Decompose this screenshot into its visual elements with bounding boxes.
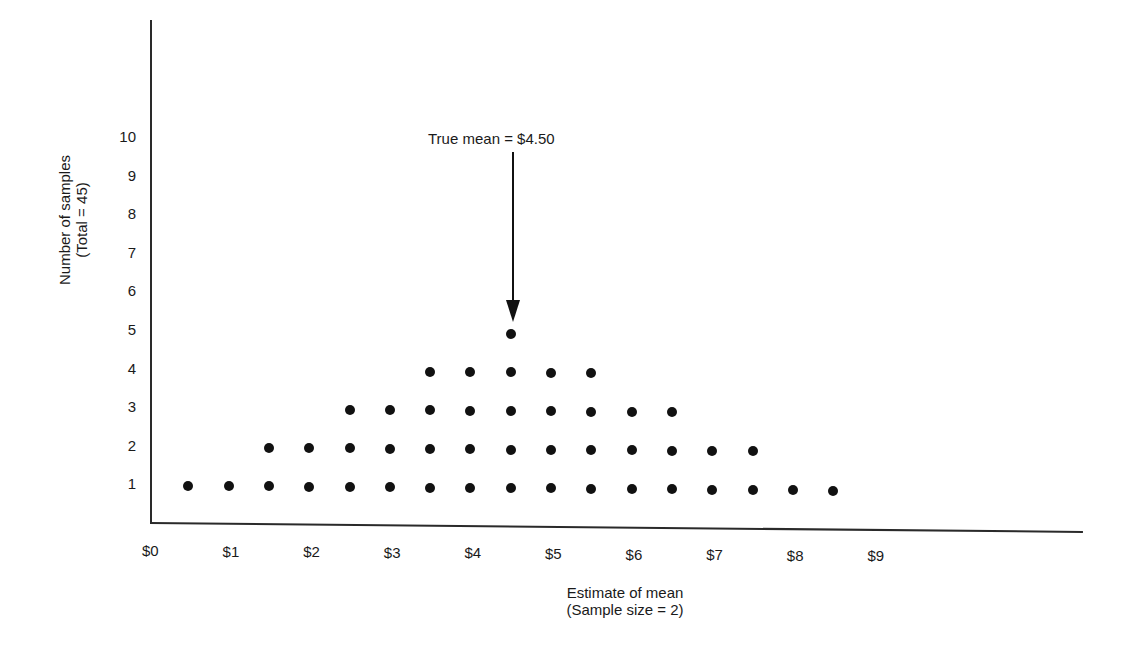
data-dot bbox=[546, 368, 556, 378]
data-dot bbox=[627, 484, 637, 494]
data-dot bbox=[304, 482, 314, 492]
data-dot bbox=[506, 445, 516, 455]
y-axis bbox=[150, 20, 152, 524]
data-dot bbox=[465, 367, 475, 377]
data-dot bbox=[627, 445, 637, 455]
y-tick-label: 1 bbox=[112, 475, 136, 492]
y-tick-label: 4 bbox=[112, 360, 136, 377]
y-tick-label: 9 bbox=[112, 167, 136, 184]
data-dot bbox=[224, 481, 234, 491]
x-tick-label: $6 bbox=[626, 546, 643, 563]
y-tick-label: 3 bbox=[112, 398, 136, 415]
data-dot bbox=[465, 444, 475, 454]
data-dot bbox=[304, 443, 314, 453]
data-dot bbox=[707, 485, 717, 495]
data-dot bbox=[707, 446, 717, 456]
x-tick-label: $1 bbox=[223, 543, 240, 560]
data-dot bbox=[586, 484, 596, 494]
arrow-down-icon bbox=[506, 300, 520, 322]
x-axis-subtitle: (Sample size = 2) bbox=[520, 601, 730, 618]
y-tick-label: 10 bbox=[112, 128, 136, 145]
data-dot bbox=[788, 485, 798, 495]
data-dot bbox=[385, 482, 395, 492]
x-tick-label: $8 bbox=[787, 547, 804, 564]
x-axis-label: Estimate of mean (Sample size = 2) bbox=[520, 584, 730, 618]
data-dot bbox=[385, 444, 395, 454]
x-axis bbox=[150, 522, 1083, 533]
x-tick-label: $0 bbox=[142, 542, 159, 559]
data-dot bbox=[506, 406, 516, 416]
data-dot bbox=[506, 367, 516, 377]
arrow-shaft bbox=[512, 152, 514, 302]
y-tick-label: 7 bbox=[112, 244, 136, 261]
data-dot bbox=[183, 481, 193, 491]
x-tick-label: $5 bbox=[545, 545, 562, 562]
data-dot bbox=[465, 406, 475, 416]
y-tick-label: 2 bbox=[112, 437, 136, 454]
data-dot bbox=[748, 485, 758, 495]
data-dot bbox=[667, 446, 677, 456]
data-dot bbox=[586, 407, 596, 417]
data-dot bbox=[425, 483, 435, 493]
y-axis-title: Number of samples bbox=[56, 110, 73, 330]
data-dot bbox=[264, 481, 274, 491]
data-dot bbox=[465, 483, 475, 493]
data-dot bbox=[506, 483, 516, 493]
x-tick-label: $4 bbox=[464, 544, 481, 561]
data-dot bbox=[425, 444, 435, 454]
y-tick-label: 6 bbox=[112, 282, 136, 299]
data-dot bbox=[345, 482, 355, 492]
x-tick-label: $3 bbox=[384, 544, 401, 561]
data-dot bbox=[385, 405, 395, 415]
data-dot bbox=[425, 367, 435, 377]
data-dot bbox=[586, 445, 596, 455]
data-dot bbox=[345, 443, 355, 453]
x-tick-label: $2 bbox=[303, 543, 320, 560]
data-dot bbox=[667, 407, 677, 417]
data-dot bbox=[546, 406, 556, 416]
data-dot bbox=[506, 329, 516, 339]
y-tick-label: 8 bbox=[112, 205, 136, 222]
x-tick-label: $9 bbox=[867, 547, 884, 564]
data-dot bbox=[586, 368, 596, 378]
data-dot bbox=[546, 445, 556, 455]
data-dot bbox=[264, 443, 274, 453]
y-tick-label: 5 bbox=[112, 321, 136, 338]
x-tick-label: $7 bbox=[706, 546, 723, 563]
data-dot bbox=[345, 405, 355, 415]
data-dot bbox=[546, 483, 556, 493]
data-dot bbox=[627, 407, 637, 417]
data-dot bbox=[748, 446, 758, 456]
data-dot bbox=[828, 486, 838, 496]
y-axis-subtitle: (Total = 45) bbox=[73, 110, 90, 330]
data-dot bbox=[425, 405, 435, 415]
x-axis-title: Estimate of mean bbox=[520, 584, 730, 601]
data-dot bbox=[667, 484, 677, 494]
true-mean-annotation: True mean = $4.50 bbox=[428, 130, 555, 147]
y-axis-label: Number of samples (Total = 45) bbox=[56, 110, 90, 330]
